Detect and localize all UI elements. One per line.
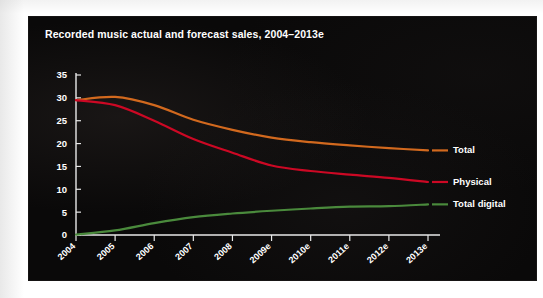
x-axis-tick-label: 2012e — [365, 241, 390, 265]
y-axis-tick-label: 10 — [56, 184, 67, 195]
page-canvas: Recorded music actual and forecast sales… — [0, 0, 543, 298]
x-axis-tick-label: 2008 — [212, 241, 234, 262]
y-axis-tick-label: 20 — [56, 138, 67, 149]
x-axis-tick-label: 2010e — [287, 241, 312, 265]
x-axis-tick-label: 2009e — [248, 241, 273, 265]
y-axis-tick-label: 35 — [56, 69, 67, 80]
x-axis-tick-label: 2006 — [134, 241, 156, 262]
line-chart-plot: 05101520253035 200420052006200720082009e… — [28, 16, 537, 281]
chart-legend: TotalPhysicalTotal digital — [432, 144, 506, 209]
legend-label-total: Total — [453, 144, 475, 155]
y-axis-tick-label: 0 — [62, 229, 67, 240]
series-line-total — [76, 97, 428, 151]
y-axis-tick-label: 25 — [56, 115, 67, 126]
y-axis-tick-label: 30 — [56, 92, 67, 103]
legend-label-physical: Physical — [453, 176, 492, 187]
x-axis-tick-label: 2007 — [173, 241, 195, 262]
x-axis-tick-label: 2013e — [404, 241, 429, 265]
series-line-total-digital — [76, 204, 428, 234]
x-axis-tick-label: 2004 — [56, 241, 78, 262]
legend-label-total-digital: Total digital — [453, 198, 506, 209]
y-axis-tick-labels: 05101520253035 — [56, 69, 67, 240]
y-axis-tick-label: 15 — [56, 161, 67, 172]
chart-title: Recorded music actual and forecast sales… — [45, 28, 324, 40]
x-axis-tick-labels: 200420052006200720082009e2010e2011e2012e… — [56, 241, 430, 265]
chart-series-lines — [76, 97, 428, 235]
series-line-physical — [76, 100, 428, 182]
chart-panel: Recorded music actual and forecast sales… — [28, 16, 537, 281]
x-axis-tick-label: 2005 — [95, 241, 117, 262]
x-axis-tick-label: 2011e — [326, 241, 351, 265]
y-axis-tick-label: 5 — [62, 207, 68, 218]
